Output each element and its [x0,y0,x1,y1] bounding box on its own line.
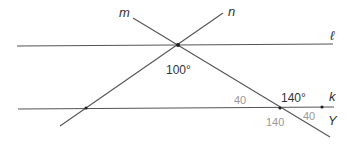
angle-label-40-lower-right: 40 [303,110,315,122]
label-n: n [228,4,235,19]
label-Y: Y [328,113,338,128]
line-m [133,18,330,137]
line-n [60,13,223,126]
angle-label-140-lower-left: 140 [266,116,284,128]
label-k: k [329,89,337,104]
line-k [18,107,334,109]
point-intersection-top [176,43,180,47]
angle-label-100: 100° [166,63,191,77]
label-l: ℓ [330,28,335,43]
angle-label-140-upper-right: 140° [281,91,306,105]
point-Y [320,105,323,108]
point-intersection-n-k [84,106,87,109]
geometry-diagram: m n ℓ k Y 100° 40 140° 140 40 [0,0,354,144]
angle-label-40-upper-left: 40 [234,94,246,106]
point-intersection-m-k [278,106,281,109]
label-m: m [119,5,130,20]
